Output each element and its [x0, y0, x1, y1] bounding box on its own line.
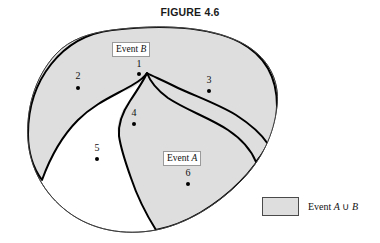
legend-label: Event A ∪ B — [308, 201, 358, 212]
event-b-prefix: Event — [116, 44, 141, 54]
figure-container: FIGURE 4.6 Event B Event A — [0, 0, 380, 243]
event-a-prefix: Event — [167, 153, 192, 163]
legend-swatch-shaded — [262, 197, 299, 216]
event-b-name: B — [141, 44, 147, 54]
outcome-label-3: 3 — [201, 74, 217, 85]
outcome-label-6: 6 — [180, 167, 196, 178]
legend: Event A ∪ B — [262, 197, 358, 216]
legend-set-b: B — [352, 201, 358, 212]
outcome-label-2: 2 — [70, 70, 86, 81]
legend-prefix: Event — [308, 201, 334, 212]
outcome-label-4: 4 — [126, 107, 142, 118]
event-a-name: A — [192, 153, 198, 163]
outcome-label-5: 5 — [89, 142, 105, 153]
outcome-label-1: 1 — [131, 58, 147, 69]
event-b-label: Event B — [112, 42, 150, 57]
event-a-label: Event A — [163, 151, 201, 166]
